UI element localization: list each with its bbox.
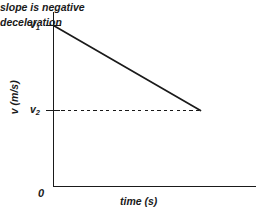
v2-subscript: 2 — [36, 108, 40, 117]
v1-subscript: 1 — [36, 23, 40, 32]
velocity-time-graph-figure: v (m/s) time (s) 0 v1 v2 slope is negati… — [0, 0, 260, 220]
v2-symbol: v — [30, 103, 36, 115]
y-tick-label-v1: v1 — [30, 19, 40, 30]
velocity-data-line — [54, 26, 201, 111]
v1-symbol: v — [30, 18, 36, 30]
y-axis-label: v (m/s) — [9, 67, 20, 127]
x-axis-label: time (s) — [120, 196, 157, 207]
y-tick-label-v2: v2 — [30, 104, 40, 115]
origin-label: 0 — [38, 188, 44, 199]
